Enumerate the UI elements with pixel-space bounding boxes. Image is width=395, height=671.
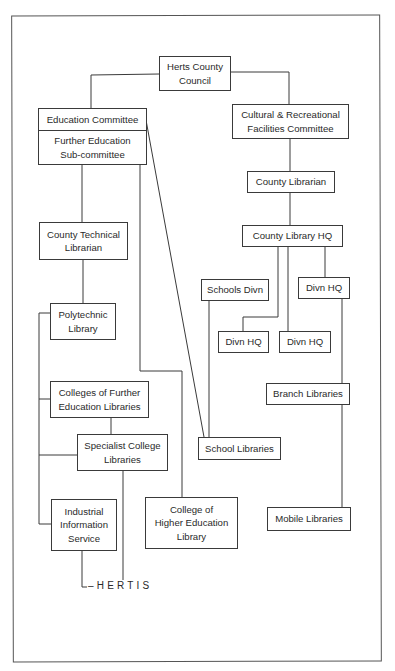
node-label: County Technical Librarian [47,228,120,255]
node-label: Mobile Libraries [275,512,343,526]
node-label: Cultural & Recreational Facilities Commi… [241,108,340,135]
node-further-education-subcommittee: Further Education Sub-committee [39,131,146,164]
node-schools-divn: Schools Divn [201,279,269,301]
node-herts-county-council: Herts County Council [159,56,231,91]
node-label: County Library HQ [253,229,332,243]
node-county-technical-librarian: County Technical Librarian [39,222,128,260]
node-label: Specialist College Libraries [84,439,160,466]
node-county-library-hq: County Library HQ [242,225,343,247]
node-label: Schools Divn [207,283,263,297]
node-label: School Libraries [205,442,274,456]
node-label: Branch Libraries [273,387,343,401]
node-county-librarian: County Librarian [247,171,335,193]
node-education-committee: Education Committee Further Education Su… [38,108,147,165]
node-label: Education Committee [47,113,139,127]
node-industrial-information-service: Industrial Information Service [51,499,117,551]
node-label: Polytechnic Library [58,308,107,335]
node-divn-hq-mid: Divn HQ [279,331,331,353]
node-cultural-recreational-committee: Cultural & Recreational Facilities Commi… [232,104,349,139]
node-label: County Librarian [256,175,326,189]
hertis-label: –HERTIS [88,580,152,591]
node-divn-hq-left: Divn HQ [218,331,269,353]
node-education-committee-header: Education Committee [39,109,146,131]
node-label: Colleges of Further Education Libraries [58,386,140,413]
node-mobile-libraries: Mobile Libraries [267,507,351,531]
node-label: Industrial Information Service [60,505,108,546]
node-label: Herts County Council [160,60,230,87]
node-label: Further Education Sub-committee [54,134,130,161]
node-label: College of Higher Education Library [155,503,229,544]
node-label: Divn HQ [306,281,342,295]
node-school-libraries: School Libraries [198,437,281,460]
node-colleges-further-education-libraries: Colleges of Further Education Libraries [50,381,149,418]
node-label: Divn HQ [225,335,261,349]
node-specialist-college-libraries: Specialist College Libraries [77,434,168,471]
node-branch-libraries: Branch Libraries [266,383,350,405]
node-label: Divn HQ [287,335,323,349]
node-college-higher-education-library: College of Higher Education Library [145,497,238,549]
node-polytechnic-library: Polytechnic Library [50,303,116,340]
node-divn-hq-right: Divn HQ [298,277,350,299]
